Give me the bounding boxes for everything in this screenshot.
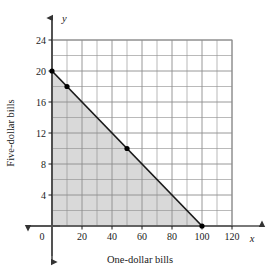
x-axis-title: One-dollar bills: [107, 254, 173, 265]
data-point: [64, 84, 69, 89]
y-tick-label: 20: [36, 66, 46, 77]
y-tick-label: 12: [36, 128, 46, 139]
data-point: [49, 68, 54, 73]
y-axis-title: Five-dollar bills: [5, 99, 16, 166]
data-point: [124, 146, 129, 151]
x-tick-label: 80: [167, 231, 177, 242]
x-tick-label: 60: [137, 231, 147, 242]
x-tick-label: 40: [107, 231, 117, 242]
x-tick-label: 100: [195, 231, 210, 242]
x-tick-label: 0: [40, 231, 45, 242]
x-tick-label: 20: [77, 231, 87, 242]
y-axis-variable-label: y: [61, 13, 67, 24]
x-tick-label: 120: [225, 231, 240, 242]
data-point: [199, 223, 204, 228]
y-tick-label: 8: [41, 159, 46, 170]
y-tick-label: 4: [41, 190, 46, 201]
chart-figure: 020406080100120 4812162024 y x One-dolla…: [0, 0, 272, 275]
x-axis-variable-label: x: [249, 233, 255, 244]
coordinate-plane-graph: 020406080100120 4812162024 y x One-dolla…: [0, 0, 272, 275]
y-tick-label: 16: [36, 97, 46, 108]
y-tick-label: 24: [36, 35, 46, 46]
